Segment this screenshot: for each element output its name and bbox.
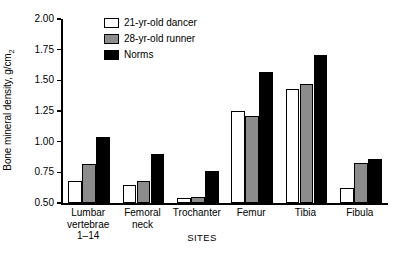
legend-item: Norms	[104, 47, 197, 62]
bar	[231, 111, 245, 203]
legend-swatch-icon	[104, 50, 119, 60]
y-axis-tick-label: 1.00	[20, 137, 54, 147]
x-axis-line	[61, 203, 388, 205]
legend-label: 28-yr-old runner	[124, 34, 195, 44]
bar	[68, 181, 82, 203]
legend-swatch-icon	[104, 18, 119, 28]
bar	[340, 188, 354, 203]
x-axis-title: SITES	[0, 232, 404, 243]
y-axis-ticks: 0.500.751.001.251.501.752.00	[0, 0, 61, 256]
bar	[354, 163, 368, 203]
legend-item: 21-yr-old dancer	[104, 15, 197, 30]
bar-group	[231, 19, 273, 203]
y-axis-tick-label: 2.00	[20, 14, 54, 24]
bar	[123, 185, 137, 203]
bar-group	[340, 19, 382, 203]
bar	[300, 84, 314, 203]
legend-label: Norms	[124, 50, 153, 60]
legend-label: 21-yr-old dancer	[124, 18, 197, 28]
bar	[205, 171, 219, 203]
bar	[368, 159, 382, 203]
bar	[96, 137, 110, 203]
bar	[191, 197, 205, 203]
x-axis-category-label: Fibula	[325, 207, 395, 219]
y-axis-tick-label: 1.25	[20, 106, 54, 116]
bar	[177, 198, 191, 203]
y-axis-tick-label: 1.50	[20, 75, 54, 85]
bar-group	[286, 19, 328, 203]
bar	[314, 55, 328, 203]
legend-item: 28-yr-old runner	[104, 31, 197, 46]
bar	[82, 164, 96, 203]
chart-legend: 21-yr-old dancer28-yr-old runnerNorms	[104, 15, 197, 63]
bar	[151, 154, 165, 203]
y-axis-tick-label: 1.75	[20, 45, 54, 55]
bar	[286, 89, 300, 203]
y-axis-tick-label: 0.50	[20, 198, 54, 208]
bar	[245, 116, 259, 203]
legend-swatch-icon	[104, 34, 119, 44]
bar	[137, 181, 151, 203]
bar-chart-figure: Bone mineral density, g/cm2 0.500.751.00…	[0, 0, 404, 256]
y-axis-tick-label: 0.75	[20, 167, 54, 177]
bar	[259, 72, 273, 203]
